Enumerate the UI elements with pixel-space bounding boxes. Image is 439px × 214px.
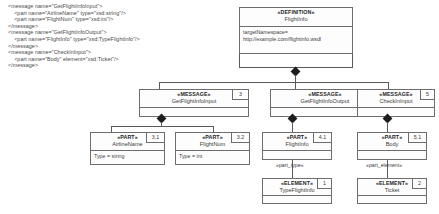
message-node-getflightinfoinput[interactable]: «MESSAGE» GetFlightInfoInput 3 — [139, 89, 249, 117]
part-index-tag: 3.2 — [231, 132, 250, 143]
message-index-tag: 5 — [420, 89, 435, 100]
element-node-typeflightinfo[interactable]: «ELEMENT» TypeFlightInfo 1 — [262, 178, 332, 204]
wsdl-message-source-code: <message name="GetFlightInfoInput"> <par… — [8, 3, 140, 69]
definition-targetnamespace-value: http://example.com/flightinfo.wsdl — [240, 36, 352, 43]
part-node-flightnum[interactable]: «PART» FlightNum Type = int 3.2 — [175, 132, 250, 165]
part-attribute: Type = int — [176, 151, 249, 160]
part-index-tag: 4.1 — [313, 132, 332, 143]
definition-branch-to-message-1 — [159, 82, 160, 89]
message-node-checkininput[interactable]: «MESSAGE» CheckInInput 5 — [357, 89, 435, 117]
part-element-edge-label: «part_element» — [366, 162, 402, 168]
message-empty-compartment — [140, 108, 248, 115]
part-empty-compartment — [263, 151, 331, 158]
part-index-tag: 3.1 — [146, 132, 165, 143]
element-index-tag: 1 — [317, 178, 332, 189]
part-node-airlinename[interactable]: «PART» AirlineName Type = string 3.1 — [90, 132, 165, 165]
diagram-canvas: <message name="GetFlightInfoInput"> <par… — [0, 0, 439, 214]
message1-tree-bus — [111, 126, 213, 127]
definition-targetnamespace-key: targetNamespace= — [240, 27, 352, 36]
definition-compartment-right-edge — [352, 54, 353, 68]
element-empty-compartment — [358, 196, 426, 203]
definition-header: «DEFINITION» FlightInfo — [240, 8, 352, 26]
part-node-body[interactable]: «PART» Body 5.1 — [357, 132, 427, 160]
element-index-tag: 2 — [412, 178, 427, 189]
message2-branch-to-part-41 — [292, 122, 293, 132]
message3-branch-to-part-51 — [387, 122, 388, 132]
definition-branch-to-message-2 — [295, 82, 296, 89]
part-empty-compartment — [358, 151, 426, 158]
part-index-tag: 5.1 — [408, 132, 427, 143]
definition-branch-to-message-3 — [388, 82, 389, 89]
definition-tree-bus — [159, 82, 388, 83]
message-empty-compartment — [358, 108, 434, 115]
part-attribute: Type = string — [91, 151, 164, 160]
part-type-edge-label: «part_type» — [276, 162, 303, 168]
definition-compartment-left-edge — [239, 54, 240, 68]
definition-name: FlightInfo — [240, 16, 352, 24]
definition-node[interactable]: «DEFINITION» FlightInfo targetNamespace=… — [239, 7, 353, 54]
definition-tree-stem — [295, 75, 296, 82]
part-node-flightinfo[interactable]: «PART» FlightInfo 4.1 — [262, 132, 332, 160]
message-index-tag: 3 — [232, 89, 249, 100]
element-node-ticket[interactable]: «ELEMENT» Ticket 2 — [357, 178, 427, 204]
definition-stereotype: «DEFINITION» — [240, 9, 352, 16]
element-empty-compartment — [263, 196, 331, 203]
